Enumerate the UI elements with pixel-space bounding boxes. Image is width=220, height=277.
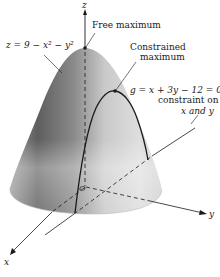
origin-label: O [79,184,86,193]
constraint-label-1: constraint on [158,95,219,105]
constraint-label-2: x and y [181,106,215,116]
constraint-leader [191,115,198,124]
free-maximum-label: Free maximum [92,20,161,30]
surface-eq-leader [44,55,62,73]
z-axis-label: z [81,0,87,10]
constrained-max-label-1: Constrained [130,42,186,52]
constraint-equation-label: g = x + 3y − 12 = 0 [130,85,220,95]
surface-equation-label: z = 9 − x² − y² [5,40,74,50]
constrained-max-label-2: maximum [140,52,185,62]
y-axis-label: y [208,209,215,219]
paraboloid-surface [10,48,162,214]
x-axis-label: x [4,257,9,267]
free-max-leader [86,33,95,47]
paraboloid-diagram: z Free maximum z = 9 − x² − y² Constrain… [0,0,220,277]
